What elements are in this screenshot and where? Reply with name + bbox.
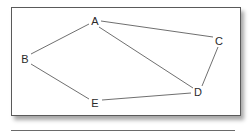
edge-a-b: [31, 24, 89, 54]
node-e-label: E: [91, 97, 98, 109]
edges: [31, 21, 218, 100]
edge-c-d: [202, 47, 218, 86]
edge-e-d: [102, 93, 191, 100]
node-d-label: D: [194, 86, 202, 98]
nodes: A B C D E: [21, 15, 223, 109]
edge-a-d: [99, 27, 193, 88]
graph-canvas: A B C D E: [0, 0, 250, 135]
node-a-label: A: [91, 15, 99, 27]
horizontal-rule: [11, 130, 235, 131]
edge-a-c: [101, 21, 213, 37]
edge-b-e: [31, 64, 89, 99]
node-c-label: C: [215, 35, 223, 47]
node-b-label: B: [21, 53, 28, 65]
